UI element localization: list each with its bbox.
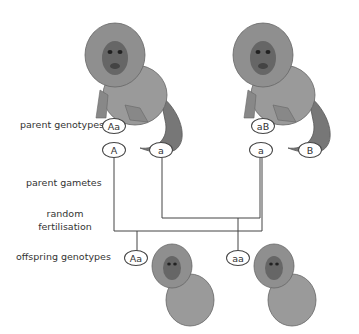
offspring-1-genotype: Aa <box>124 250 148 266</box>
label-fertilisation: fertilisation <box>30 221 100 233</box>
parent-2-genotype: aB <box>251 118 275 134</box>
genetic-cross-diagram: parent genotypes parent gametes random f… <box>0 0 359 334</box>
parent-1-genotype: Aa <box>102 118 126 134</box>
label-parent-gametes: parent gametes <box>26 177 102 189</box>
label-random: random <box>40 208 90 220</box>
gamete-a-parent-2: a <box>249 142 273 158</box>
parent-monkey-1-icon <box>85 23 182 153</box>
diagram-graphics <box>0 0 359 334</box>
cross-lines <box>114 158 262 252</box>
gamete-a-parent-1: a <box>149 142 173 158</box>
offspring-monkey-2-icon <box>254 244 316 326</box>
gamete-B: B <box>298 142 322 158</box>
offspring-2-genotype: aa <box>226 250 250 266</box>
parent-monkey-2-icon <box>233 23 330 153</box>
label-offspring-genotypes: offspring genotypes <box>16 251 111 263</box>
label-parent-genotypes: parent genotypes <box>20 119 104 131</box>
gamete-A: A <box>102 142 126 158</box>
offspring-monkey-1-icon <box>152 244 214 326</box>
